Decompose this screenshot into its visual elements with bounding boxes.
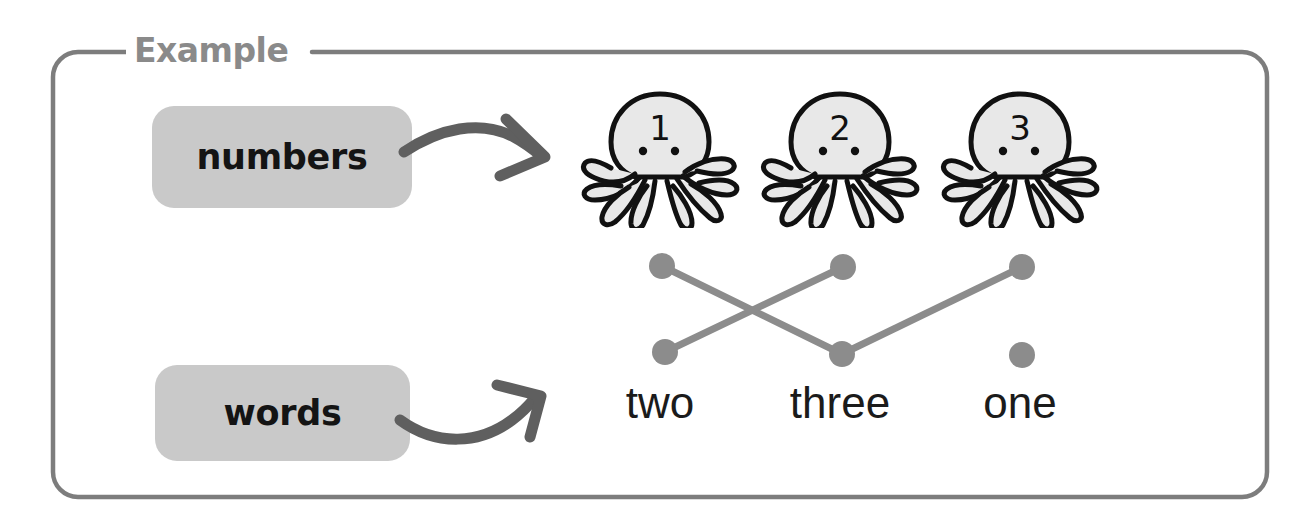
octopus-eye-right bbox=[671, 147, 679, 155]
octopus-icon bbox=[755, 88, 925, 228]
octopus-eye-left bbox=[639, 147, 647, 155]
octopus-eye-right bbox=[1031, 147, 1039, 155]
octopus-icon bbox=[575, 88, 745, 228]
octopus-eye-left bbox=[819, 147, 827, 155]
worksheet-example-panel: Example numbers words bbox=[0, 0, 1307, 519]
word-item-two[interactable]: two bbox=[560, 378, 760, 428]
octopus-item-3: 3 bbox=[935, 88, 1105, 228]
octopus-eye-right bbox=[851, 147, 859, 155]
category-chip-words[interactable]: words bbox=[155, 365, 410, 461]
word-item-one[interactable]: one bbox=[920, 378, 1120, 428]
category-chip-words-label: words bbox=[223, 393, 341, 433]
example-legend-label: Example bbox=[126, 25, 296, 77]
octopus-eye-left bbox=[999, 147, 1007, 155]
octopus-icon bbox=[935, 88, 1105, 228]
word-item-three[interactable]: three bbox=[740, 378, 940, 428]
octopus-item-2: 2 bbox=[755, 88, 925, 228]
category-chip-numbers-label: numbers bbox=[196, 137, 367, 177]
category-chip-numbers[interactable]: numbers bbox=[152, 106, 412, 208]
octopus-item-1: 1 bbox=[575, 88, 745, 228]
